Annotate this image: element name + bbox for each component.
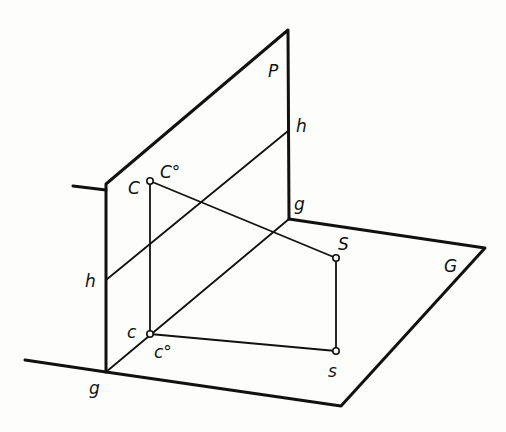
- trace-h: [106, 131, 288, 280]
- projection-diagram: P h g C C° S G h c c° s g: [0, 0, 506, 432]
- label-g-bottom: g: [89, 378, 100, 398]
- label-h-left: h: [85, 271, 96, 291]
- point-s: [333, 348, 339, 354]
- line-c-s: [150, 334, 336, 351]
- label-S: S: [338, 234, 349, 254]
- line-C-S: [150, 181, 336, 258]
- label-C: C: [128, 178, 140, 198]
- label-C-deg: C°: [160, 162, 180, 182]
- label-h-top: h: [296, 116, 307, 136]
- trace-g-diagonal: [106, 219, 289, 372]
- label-P: P: [268, 61, 279, 81]
- label-c: c: [127, 322, 137, 342]
- label-G: G: [444, 256, 457, 276]
- label-c-deg: c°: [154, 342, 172, 362]
- label-g-top: g: [294, 194, 305, 214]
- point-S: [333, 255, 339, 261]
- diagram-canvas: P h g C C° S G h c c° s g: [0, 0, 506, 432]
- plane-p: [73, 30, 289, 372]
- point-C: [147, 178, 153, 184]
- plane-p-left-stub: [73, 186, 106, 190]
- point-c: [147, 331, 153, 337]
- label-s: s: [328, 361, 337, 381]
